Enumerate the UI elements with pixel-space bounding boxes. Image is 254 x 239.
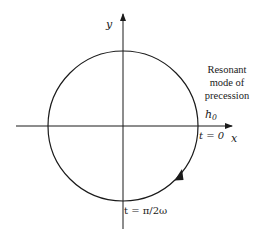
t-quarter-period-label: t = π/2ω (124, 206, 167, 216)
note-line-1: Resonant (199, 63, 254, 76)
x-axis-label: x (231, 133, 237, 144)
precession-diagram: y x Resonant mode of precession h0 t = 0… (0, 0, 254, 239)
t0-label: t = 0 (199, 131, 224, 141)
y-axis-label: y (106, 19, 112, 30)
direction-arrow-icon (175, 169, 184, 181)
note-line-3: precession (199, 89, 254, 102)
resonant-mode-note: Resonant mode of precession (199, 63, 254, 102)
note-line-2: mode of (199, 76, 254, 89)
h0-label: h0 (205, 109, 217, 120)
h0-subscript: 0 (212, 113, 217, 122)
